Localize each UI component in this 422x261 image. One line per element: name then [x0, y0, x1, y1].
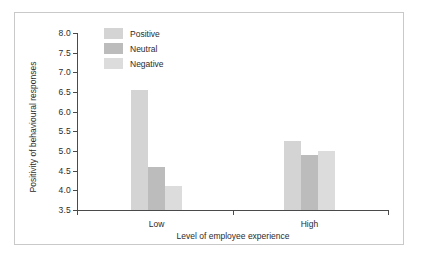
x-tick-mark — [233, 211, 234, 215]
x-tick-mark — [388, 211, 389, 215]
chart-legend: PositiveNeutralNegative — [104, 26, 164, 71]
legend-item-positive: Positive — [104, 26, 164, 41]
legend-label: Positive — [130, 29, 160, 39]
y-tick-label: 5.0 — [59, 146, 71, 156]
bar-negative-high — [318, 151, 335, 210]
legend-label: Neutral — [130, 44, 157, 54]
bar-positive-high — [284, 141, 301, 210]
bar-negative-low — [165, 186, 182, 210]
x-category-label-low: Low — [149, 219, 165, 229]
y-tick-label: 7.0 — [59, 67, 71, 77]
y-tick-label: 4.0 — [59, 185, 71, 195]
y-tick-label: 3.5 — [59, 205, 71, 215]
bar-positive-low — [131, 90, 148, 210]
legend-swatch-negative-icon — [104, 58, 123, 69]
y-tick-mark — [73, 53, 77, 54]
y-tick-mark — [73, 151, 77, 152]
y-tick-label: 5.5 — [59, 126, 71, 136]
bar-neutral-low — [148, 167, 165, 210]
x-category-label-high: High — [301, 219, 318, 229]
legend-swatch-positive-icon — [104, 28, 123, 39]
x-axis-title: Level of employee experience — [77, 231, 389, 241]
y-tick-label: 6.0 — [59, 107, 71, 117]
legend-item-neutral: Neutral — [104, 41, 164, 56]
y-tick-mark — [73, 72, 77, 73]
chart-figure: Positivity of behavioural responses 8.07… — [14, 12, 404, 245]
y-axis-title: Positivity of behavioural responses — [28, 62, 38, 193]
y-tick-label: 4.5 — [59, 166, 71, 176]
legend-swatch-neutral-icon — [104, 43, 123, 54]
y-tick-mark — [73, 190, 77, 191]
legend-item-negative: Negative — [104, 56, 164, 71]
y-tick-mark — [73, 92, 77, 93]
y-tick-mark — [73, 33, 77, 34]
legend-label: Negative — [130, 59, 164, 69]
y-tick-mark — [73, 171, 77, 172]
y-tick-label: 7.5 — [59, 48, 71, 58]
y-axis-line — [77, 33, 78, 211]
x-tick-mark — [77, 211, 78, 215]
y-tick-label: 6.5 — [59, 87, 71, 97]
y-tick-mark — [73, 112, 77, 113]
bar-neutral-high — [301, 155, 318, 210]
y-tick-mark — [73, 131, 77, 132]
y-tick-label: 8.0 — [59, 28, 71, 38]
